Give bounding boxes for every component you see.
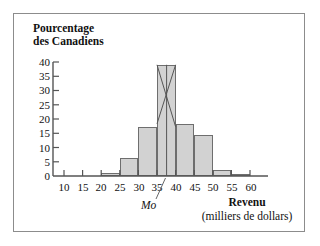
y-tick-label-20: 20 <box>32 114 50 125</box>
y-tick-label-0: 0 <box>32 171 50 182</box>
x-tick-label-10: 10 <box>54 182 74 193</box>
y-tick-label-15: 15 <box>32 128 50 139</box>
bar-50-55 <box>213 170 232 176</box>
x-tick-label-60: 60 <box>241 182 261 193</box>
y-tick-label-30: 30 <box>32 85 50 96</box>
bar-25-30 <box>120 158 139 176</box>
bar-45-50 <box>194 135 213 176</box>
x-axis-subtitle: (milliers de dollars) <box>202 210 293 222</box>
y-axis-title-line1: Pourcentage <box>33 22 104 35</box>
bar-20-25 <box>101 173 120 176</box>
x-tick-label-15: 15 <box>73 182 93 193</box>
x-tick-label-40: 40 <box>166 182 186 193</box>
mode-label: Mo <box>141 199 156 211</box>
x-tick-label-50: 50 <box>203 182 223 193</box>
x-axis-title: Revenu <box>228 196 265 208</box>
bar-40-45 <box>176 124 195 176</box>
x-tick-label-45: 45 <box>185 182 205 193</box>
figure-canvas: Pourcentage des Canadiens 40 35 30 25 20… <box>0 0 320 246</box>
chart-plot-area: Pourcentage des Canadiens 40 35 30 25 20… <box>0 0 320 246</box>
x-tick-label-30: 30 <box>129 182 149 193</box>
y-tick-label-5: 5 <box>32 157 50 168</box>
y-tick-label-10: 10 <box>32 143 50 154</box>
y-axis-title: Pourcentage des Canadiens <box>33 22 104 48</box>
x-tick-label-20: 20 <box>91 182 111 193</box>
x-tick-label-55: 55 <box>222 182 242 193</box>
x-tick-label-35: 35 <box>147 182 167 193</box>
x-tick-label-25: 25 <box>110 182 130 193</box>
bar-55-60 <box>231 174 250 176</box>
y-tick-label-40: 40 <box>32 57 50 68</box>
bar-35-40 <box>157 65 176 176</box>
bar-30-35 <box>138 127 157 176</box>
y-axis-title-line2: des Canadiens <box>33 35 104 48</box>
y-tick-label-25: 25 <box>32 100 50 111</box>
y-tick-label-35: 35 <box>32 71 50 82</box>
